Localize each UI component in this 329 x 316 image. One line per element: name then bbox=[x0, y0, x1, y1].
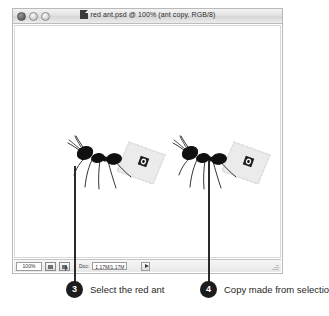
image-canvas[interactable] bbox=[14, 25, 281, 258]
document-size-label: Doc: bbox=[79, 263, 89, 269]
callout-3: 3 Select the red ant bbox=[66, 281, 164, 298]
callout-badge-3: 3 bbox=[66, 281, 83, 298]
zoom-button[interactable] bbox=[41, 12, 50, 21]
ant-original[interactable] bbox=[67, 134, 171, 200]
document-size-value: 1.17M/1.17M bbox=[92, 262, 127, 270]
window-controls bbox=[17, 12, 50, 21]
stamp-paper bbox=[222, 142, 270, 184]
photoshop-document-window[interactable]: red ant.psd @ 100% (ant copy, RGB/8) bbox=[12, 8, 283, 274]
window-title: red ant.psd @ 100% (ant copy, RGB/8) bbox=[91, 11, 216, 18]
callout-text-4: Copy made from selection bbox=[224, 284, 329, 295]
callout-line-3 bbox=[74, 166, 76, 288]
callout-line-4 bbox=[208, 160, 210, 288]
ant-copy[interactable] bbox=[172, 134, 276, 200]
callout-4: 4 Copy made from selection bbox=[200, 281, 329, 298]
document-size-group: Doc: 1.17M/1.17M bbox=[79, 262, 127, 271]
zoom-level-field[interactable]: 100% bbox=[16, 262, 42, 271]
photoshop-document-icon bbox=[80, 10, 88, 19]
window-title-group: red ant.psd @ 100% (ant copy, RGB/8) bbox=[13, 10, 282, 19]
minimize-button[interactable] bbox=[29, 12, 38, 21]
stamp-paper bbox=[117, 142, 165, 184]
callout-text-3: Select the red ant bbox=[90, 284, 164, 295]
popup-menu-arrow-icon[interactable] bbox=[141, 262, 150, 271]
window-titlebar[interactable]: red ant.psd @ 100% (ant copy, RGB/8) bbox=[13, 9, 282, 24]
preview-icon[interactable] bbox=[45, 262, 56, 271]
close-button[interactable] bbox=[17, 12, 26, 21]
callout-badge-4: 4 bbox=[200, 281, 217, 298]
document-status-bar[interactable]: 100% Doc: 1.17M/1.17M bbox=[14, 259, 281, 272]
export-icon[interactable] bbox=[59, 262, 70, 271]
resize-grip[interactable] bbox=[269, 261, 280, 272]
